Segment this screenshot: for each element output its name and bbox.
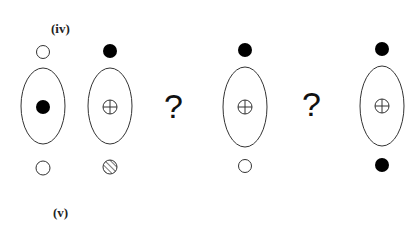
filled-dot-icon	[36, 100, 50, 114]
filled-circle-icon	[238, 43, 252, 57]
filled-circle-icon	[375, 158, 389, 172]
circle-plus-icon	[375, 99, 389, 113]
column-2	[88, 44, 132, 174]
column-1	[21, 46, 65, 176]
question-mark-2: ?	[302, 85, 321, 123]
filled-circle-icon	[103, 44, 117, 58]
hatched-circle-icon	[103, 160, 117, 174]
column-3	[223, 43, 267, 173]
open-circle-icon	[239, 160, 252, 173]
open-circle-icon	[36, 161, 50, 175]
circle-plus-icon	[103, 100, 117, 114]
label-v: (v)	[53, 205, 68, 220]
column-4	[360, 42, 404, 172]
question-mark-1: ?	[164, 87, 183, 125]
open-circle-icon	[37, 46, 50, 59]
filled-circle-icon	[375, 42, 389, 56]
label-iv: (iv)	[51, 21, 70, 36]
circle-plus-icon	[238, 100, 252, 114]
diagram-canvas: (iv) ? ?	[0, 0, 419, 234]
